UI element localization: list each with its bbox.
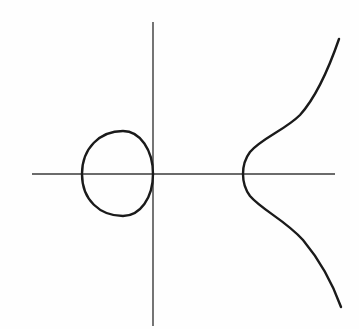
elliptic-curve-diagram (0, 0, 359, 329)
unbounded-branch (243, 39, 341, 307)
diagram-svg (0, 0, 359, 329)
